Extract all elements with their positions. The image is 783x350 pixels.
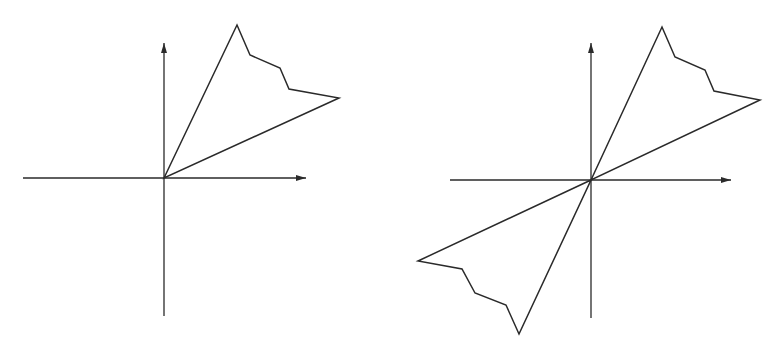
y-axis-arrow-icon	[161, 43, 167, 53]
first-quadrant-region	[591, 27, 760, 180]
left-figure	[23, 25, 339, 316]
diagram-canvas	[0, 0, 783, 350]
x-axis-arrow-icon	[296, 175, 306, 181]
right-figure	[418, 27, 760, 334]
third-quadrant-reflected-region	[418, 180, 591, 334]
y-axis-arrow-icon	[588, 43, 594, 53]
x-axis-arrow-icon	[721, 177, 731, 183]
first-quadrant-region	[164, 25, 339, 178]
